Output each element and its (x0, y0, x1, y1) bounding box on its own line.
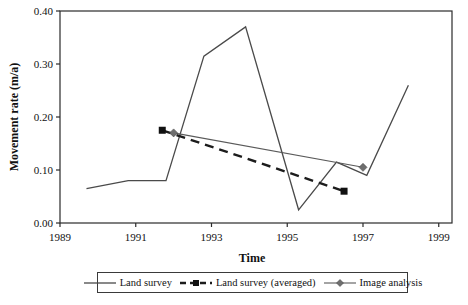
marker-square-land-survey-averaged (341, 188, 348, 195)
legend-item-land-survey: Land survey (83, 277, 172, 288)
legend-swatch-land-survey-averaged (179, 278, 213, 288)
y-tick-label: 0.40 (34, 5, 54, 17)
x-tick-label: 1997 (352, 231, 375, 243)
marker-diamond-image-analysis (359, 163, 367, 171)
legend-marker-square (193, 280, 199, 286)
legend-marker-diamond (336, 279, 343, 286)
y-tick-label: 0.30 (34, 58, 54, 70)
marker-square-land-survey-averaged (159, 127, 166, 134)
series-line-land-survey-averaged (162, 130, 344, 191)
movement-rate-chart: 1989199119931995199719990.000.100.200.30… (0, 0, 468, 305)
y-tick-label: 0.00 (34, 217, 54, 229)
x-axis-title: Time (239, 251, 265, 266)
legend-item-land-survey-averaged: Land survey (averaged) (179, 277, 316, 288)
x-tick-label: 1995 (276, 231, 299, 243)
legend-item-image-analysis: Image analysis (323, 277, 423, 288)
series-line-land-survey (87, 27, 409, 210)
x-tick-label: 1989 (49, 231, 72, 243)
legend-swatch-land-survey (83, 278, 117, 288)
legend-label: Land survey (averaged) (216, 277, 316, 288)
legend-label: Land survey (120, 277, 172, 288)
y-tick-label: 0.10 (34, 164, 54, 176)
y-tick-label: 0.20 (34, 111, 54, 123)
legend: Land surveyLand survey (averaged)Image a… (97, 272, 408, 293)
series-line-image-analysis (174, 133, 363, 167)
y-axis-title: Movement rate (m/a) (7, 63, 22, 172)
plot-area: 1989199119931995199719990.000.100.200.30… (0, 0, 468, 268)
x-tick-label: 1999 (428, 231, 451, 243)
legend-swatch-image-analysis (323, 278, 357, 288)
legend-label: Image analysis (360, 277, 423, 288)
x-tick-label: 1993 (200, 231, 223, 243)
x-tick-label: 1991 (125, 231, 147, 243)
